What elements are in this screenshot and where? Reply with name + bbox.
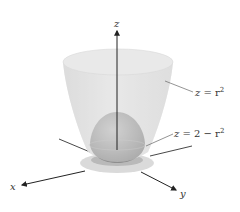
y-axis-back [150,146,192,156]
outer-surface-leader [165,81,193,92]
z-axis-label: z [113,18,120,29]
outer-paraboloid-front [63,62,173,162]
outer-paraboloid-rim [63,49,173,75]
y-axis [141,172,176,190]
x-axis-label: x [10,181,16,192]
y-axis-label: y [179,188,186,199]
outer-surface-label: z = r2 [194,86,224,98]
inner-surface-label: z = 2 − r2 [173,127,224,139]
paraboloid-diagram: z x y z = r2 z = 2 − r2 [0,0,240,212]
x-axis [22,171,85,185]
